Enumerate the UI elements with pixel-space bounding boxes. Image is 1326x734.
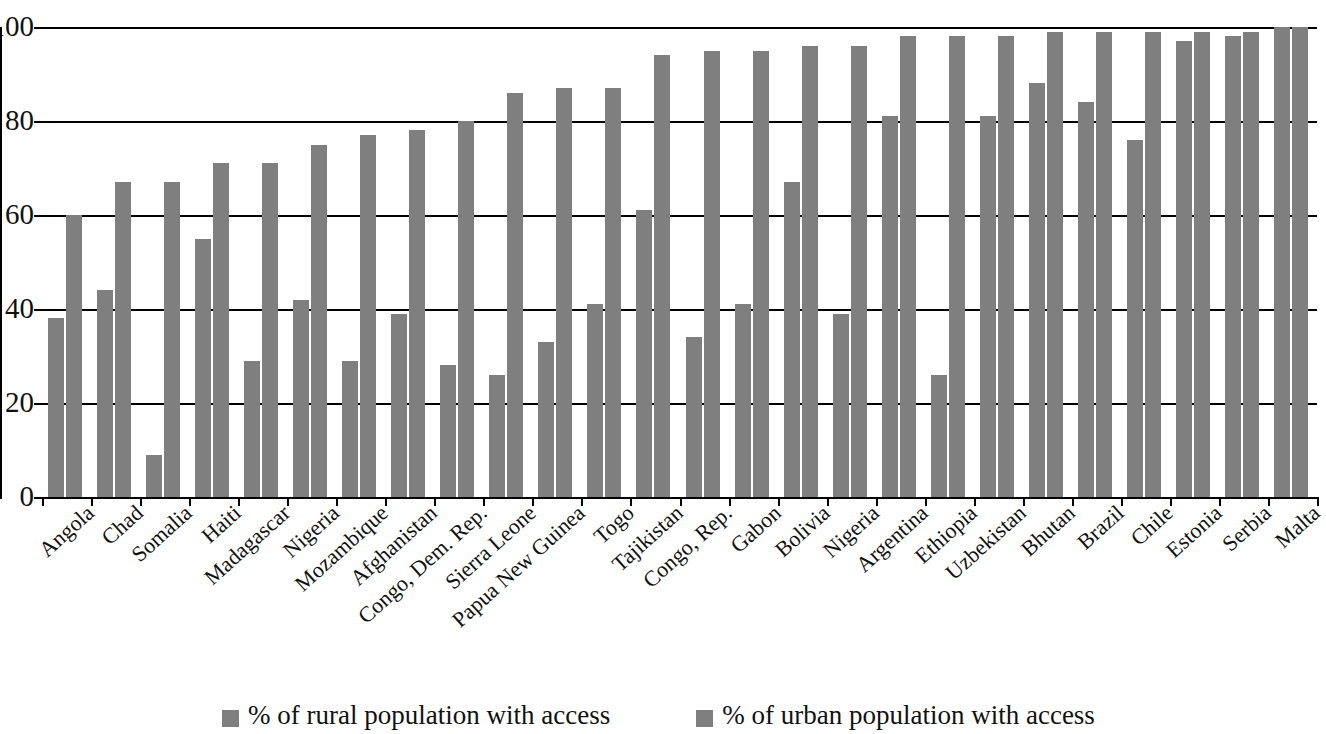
bar-urban: [115, 182, 131, 497]
legend-item: % of urban population with access: [696, 700, 1095, 730]
bar-urban: [164, 182, 180, 497]
y-axis-tick-label: 80: [5, 106, 34, 135]
y-axis-tick: [34, 309, 44, 311]
bar-rural: [833, 314, 849, 497]
bar-urban: [1292, 27, 1308, 497]
bar-rural: [1225, 36, 1241, 497]
bar-rural: [1274, 27, 1290, 497]
bar-urban: [1145, 32, 1161, 497]
bar-group: [293, 27, 342, 497]
bar-group: [1029, 27, 1078, 497]
bar-rural: [48, 318, 64, 497]
bar-group: [882, 27, 931, 497]
legend-swatch-icon: [222, 710, 239, 727]
bar-group: [97, 27, 146, 497]
bar-group: [146, 27, 195, 497]
bar-urban: [1096, 32, 1112, 497]
bar-urban: [1243, 32, 1259, 497]
bar-group: [1078, 27, 1127, 497]
bar-urban: [213, 163, 229, 497]
bar-rural: [980, 116, 996, 497]
bar-rural: [882, 116, 898, 497]
bar-rural: [391, 314, 407, 497]
bar-group: [489, 27, 538, 497]
bar-rural: [195, 239, 211, 498]
y-axis-tick-label: 60: [5, 200, 34, 229]
bar-urban: [311, 145, 327, 498]
bar-group: [980, 27, 1029, 497]
bar-group: [391, 27, 440, 497]
y-axis-tick: [34, 121, 44, 123]
legend-item: % of rural population with access: [222, 700, 610, 730]
bar-group: [1127, 27, 1176, 497]
x-axis-category-labels: AngolaChadSomaliaHaitiMadagascarNigeriaM…: [42, 500, 1317, 680]
bar-group: [1274, 27, 1323, 497]
bar-urban: [851, 46, 867, 497]
y-axis-tick: [34, 27, 44, 29]
bar-urban: [753, 51, 769, 498]
bar-urban: [949, 36, 965, 497]
legend-label: % of rural population with access: [248, 700, 610, 730]
bar-rural: [1176, 41, 1192, 497]
bar-group: [342, 27, 391, 497]
y-axis-tick-label: 0: [20, 482, 35, 511]
bar-urban: [704, 51, 720, 498]
bar-urban: [900, 36, 916, 497]
bar-urban: [998, 36, 1014, 497]
bar-group: [833, 27, 882, 497]
legend-swatch-icon: [696, 710, 713, 727]
bar-group: [195, 27, 244, 497]
chart-legend: % of rural population with access% of ur…: [0, 700, 1317, 734]
y-axis-tick: [34, 403, 44, 405]
legend-label: % of urban population with access: [722, 700, 1095, 730]
bar-group: [931, 27, 980, 497]
y-axis-tick-label: 40: [5, 294, 34, 323]
bar-group: [735, 27, 784, 497]
bar-rural: [1029, 83, 1045, 497]
bar-group: [1225, 27, 1274, 497]
bar-rural: [293, 300, 309, 497]
y-axis-tick-label: 20: [5, 388, 34, 417]
bar-urban: [1047, 32, 1063, 497]
bar-group: [784, 27, 833, 497]
y-axis-tick-label: 100: [0, 12, 34, 41]
bar-urban: [1194, 32, 1210, 497]
bar-rural: [1127, 140, 1143, 497]
y-axis-tick: [34, 215, 44, 217]
bar-urban: [66, 215, 82, 497]
bar-urban: [262, 163, 278, 497]
bar-group: [244, 27, 293, 497]
bar-urban: [409, 130, 425, 497]
bar-group: [48, 27, 97, 497]
y-axis-line: [0, 27, 2, 499]
bar-group: [1176, 27, 1225, 497]
bar-rural: [97, 290, 113, 497]
